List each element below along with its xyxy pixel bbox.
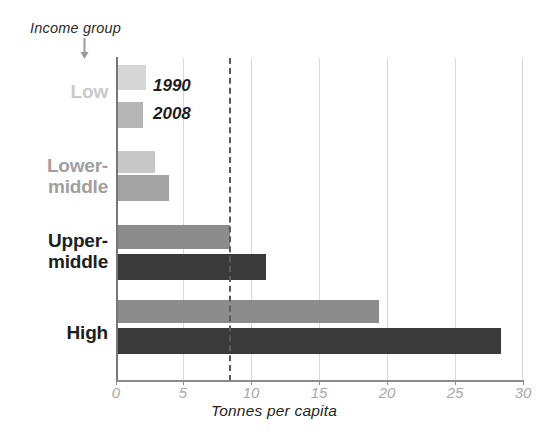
bar-upper-middle-1990 <box>116 225 230 249</box>
x-tick-label-20: 20 <box>372 384 402 401</box>
x-tick-label-30: 30 <box>508 384 538 401</box>
x-tick-label-10: 10 <box>236 384 266 401</box>
legend-label-2008: 2008 <box>153 104 191 124</box>
income-group-annotation: Income group <box>30 20 121 36</box>
down-arrow-icon <box>79 38 90 60</box>
bar-lower-middle-1990 <box>116 151 155 173</box>
world-average-reference-line <box>229 58 231 381</box>
y-axis-line <box>116 57 118 381</box>
legend-label-1990: 1990 <box>153 76 191 96</box>
x-tick-label-15: 15 <box>304 384 334 401</box>
bar-upper-middle-2008 <box>116 254 266 280</box>
category-label-upper-middle: Upper- middle <box>4 230 108 272</box>
bar-low-2008 <box>116 102 143 128</box>
bar-lower-middle-2008 <box>116 175 169 201</box>
x-tick-label-5: 5 <box>168 384 198 401</box>
x-tick-label-0: 0 <box>101 384 131 401</box>
bar-high-2008 <box>116 328 501 354</box>
category-label-low: Low <box>4 81 108 102</box>
x-tick-label-25: 25 <box>440 384 470 401</box>
category-label-lower-middle: Lower- middle <box>4 155 108 197</box>
x-axis-title: Tonnes per capita <box>0 402 548 420</box>
bar-low-1990 <box>116 65 146 90</box>
bar-high-1990 <box>116 300 379 323</box>
gridline-30 <box>522 58 523 380</box>
x-axis-line <box>116 380 524 382</box>
category-label-high: High <box>4 322 108 343</box>
bar-chart: Income group 0 5 10 15 <box>0 0 548 444</box>
